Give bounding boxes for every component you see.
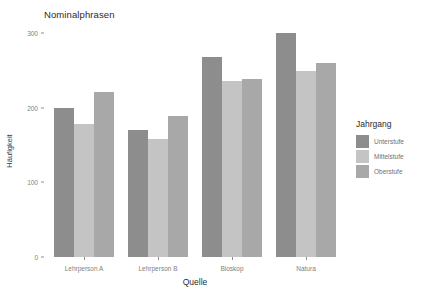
bar[interactable] [276, 33, 296, 257]
x-axis: Lehrperson ALehrperson BBioskopNatura Qu… [47, 257, 343, 302]
y-tick-mark [41, 33, 44, 34]
legend-swatch [356, 135, 369, 148]
y-tick-label: 100 [27, 179, 38, 186]
x-tick-mark [306, 257, 307, 260]
bar-group [54, 26, 115, 257]
legend-item[interactable]: Mittelstufe [356, 150, 404, 163]
chart-title: Nominalphrasen [44, 9, 115, 20]
legend-label: Mittelstufe [374, 153, 404, 160]
x-axis-title: Quelle [183, 277, 208, 287]
bar[interactable] [148, 139, 168, 257]
x-tick-label: Natura [296, 265, 316, 272]
bar[interactable] [202, 57, 222, 257]
legend-label: Oberstufe [374, 168, 403, 175]
x-tick-label: Lehrperson A [65, 265, 104, 272]
bar-group [128, 26, 189, 257]
legend: Jahrgang UnterstufeMittelstufeOberstufe [356, 119, 404, 180]
y-tick-label: 200 [27, 104, 38, 111]
x-tick-label: Lehrperson B [138, 265, 177, 272]
bar[interactable] [242, 79, 262, 257]
legend-title: Jahrgang [356, 119, 404, 129]
y-tick-mark [41, 182, 44, 183]
x-tick-mark [84, 257, 85, 260]
bar-chart: Nominalphrasen Häufigkeit 0100200300 Leh… [0, 0, 427, 302]
plot-panel [47, 26, 343, 257]
y-axis-title: Häufigkeit [5, 106, 14, 196]
legend-swatch [356, 165, 369, 178]
y-axis: Häufigkeit 0100200300 [0, 0, 47, 302]
bar[interactable] [168, 116, 188, 257]
x-tick-mark [232, 257, 233, 260]
bar[interactable] [222, 81, 242, 257]
bar[interactable] [94, 92, 114, 257]
legend-items: UnterstufeMittelstufeOberstufe [356, 135, 404, 178]
bar[interactable] [54, 108, 74, 257]
legend-item[interactable]: Unterstufe [356, 135, 404, 148]
y-tick-mark [41, 257, 44, 258]
bar-group [276, 26, 337, 257]
bar[interactable] [316, 63, 336, 257]
bar[interactable] [74, 124, 94, 257]
legend-item[interactable]: Oberstufe [356, 165, 404, 178]
bar[interactable] [296, 71, 316, 257]
legend-swatch [356, 150, 369, 163]
x-tick-label: Bioskop [220, 265, 243, 272]
x-tick-mark [158, 257, 159, 260]
y-tick-label: 300 [27, 30, 38, 37]
bar[interactable] [128, 130, 148, 257]
y-tick-label: 0 [34, 254, 38, 261]
bars-layer [47, 26, 343, 257]
legend-label: Unterstufe [374, 138, 404, 145]
y-tick-mark [41, 107, 44, 108]
bar-group [202, 26, 263, 257]
